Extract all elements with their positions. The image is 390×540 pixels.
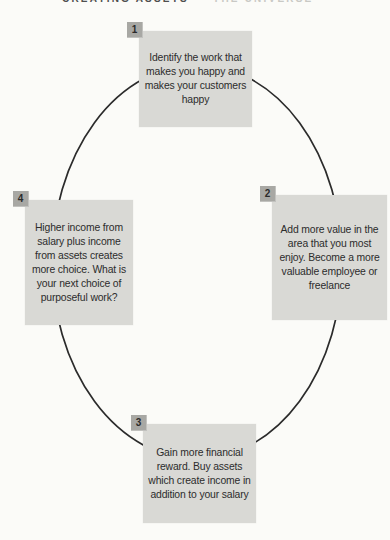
step-3-text: Gain more financial reward. Buy assets w… (143, 444, 256, 504)
book-page: { "header": { "left": "CREATING ASSETS",… (0, 0, 390, 540)
step-2-number-badge: 2 (260, 186, 276, 202)
step-4-text: Higher income from salary plus income fr… (25, 219, 133, 307)
step-box-1: 1 Identify the work that makes you happy… (139, 31, 252, 127)
step-4-number-badge: 4 (13, 191, 29, 207)
step-1-number-badge: 1 (127, 22, 143, 38)
step-3-number-badge: 3 (131, 415, 147, 431)
step-1-text: Identify the work that makes you happy a… (139, 49, 252, 109)
step-box-4: 4 Higher income from salary plus income … (25, 200, 133, 325)
step-2-text: Add more value in the area that you most… (272, 221, 387, 295)
step-box-2: 2 Add more value in the area that you mo… (272, 195, 387, 320)
step-box-3: 3 Gain more financial reward. Buy assets… (143, 424, 256, 523)
